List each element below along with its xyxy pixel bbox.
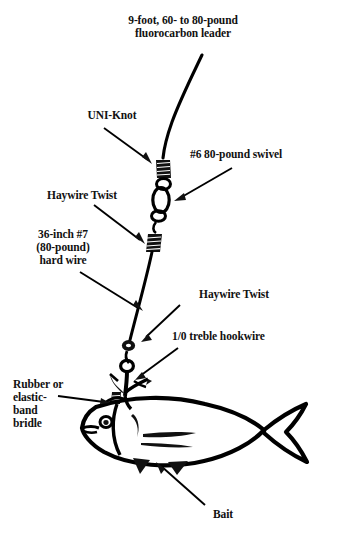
leader-arrow-hard-wire xyxy=(80,272,143,311)
bait-fish xyxy=(82,398,307,475)
label-bait: Bait xyxy=(196,508,250,521)
barrel-swivel xyxy=(152,179,171,233)
leader-arrow-swivel xyxy=(174,168,232,201)
hard-wire-segment xyxy=(130,252,152,340)
label-uni-knot: UNI-Knot xyxy=(60,109,164,122)
label-treble-hookwire: 1/0 treble hookwire xyxy=(172,330,312,343)
rig-line-art xyxy=(0,0,343,550)
uni-knot-coil xyxy=(156,160,171,178)
leader-arrow-uni-knot xyxy=(104,128,152,164)
label-rubber-band-bridle: Rubber or elastic- band bridle xyxy=(13,378,85,430)
leader-arrow-hookwire xyxy=(135,348,178,380)
fishing-rig-diagram: 9-foot, 60- to 80-pound fluorocarbon lea… xyxy=(0,0,343,550)
label-haywire-twist-lower: Haywire Twist xyxy=(178,288,290,301)
fluorocarbon-leader-line xyxy=(163,55,202,158)
label-fluorocarbon-leader: 9-foot, 60- to 80-pound fluorocarbon lea… xyxy=(88,14,278,40)
haywire-twist-lower xyxy=(121,340,136,372)
label-swivel: #6 80-pound swivel xyxy=(190,148,340,161)
label-hard-wire: 36-inch #7 (80-pound) hard wire xyxy=(11,228,115,267)
label-haywire-twist-upper: Haywire Twist xyxy=(26,189,138,202)
haywire-twist-upper xyxy=(146,234,162,252)
